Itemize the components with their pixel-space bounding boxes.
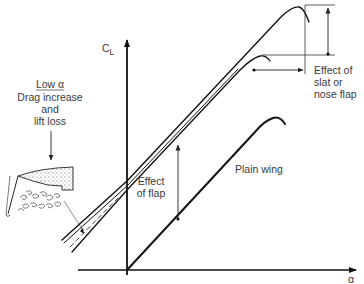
airfoil-separation-illustration (6, 167, 82, 229)
effect-of-slat-line-1: Effect of (314, 64, 352, 76)
effect-of-slat-line-2: slat or (314, 76, 343, 88)
slat-cl-dot (326, 52, 329, 55)
low-alpha-dashed-line (70, 198, 118, 247)
low-alpha-line-1: Drag increase (17, 91, 83, 103)
low-alpha-line-2: and (41, 103, 59, 115)
slat-alpha-dot (252, 68, 255, 71)
plain-wing-label: Plain wing (235, 163, 283, 175)
slat-flap-curve (62, 7, 309, 240)
low-alpha-line-3: lift loss (34, 115, 66, 127)
y-axis-label: CL (102, 42, 115, 57)
effect-of-flap-line-2: of flap (137, 187, 166, 199)
low-alpha-title: Low α (36, 78, 64, 90)
effect-of-slat-line-3: nose flap (314, 88, 357, 100)
lift-curve-diagram: CL α (0, 0, 364, 284)
effect-of-flap-dot (176, 217, 179, 220)
effect-of-flap-line-1: Effect (138, 175, 165, 187)
x-axis-label: α (348, 273, 354, 284)
